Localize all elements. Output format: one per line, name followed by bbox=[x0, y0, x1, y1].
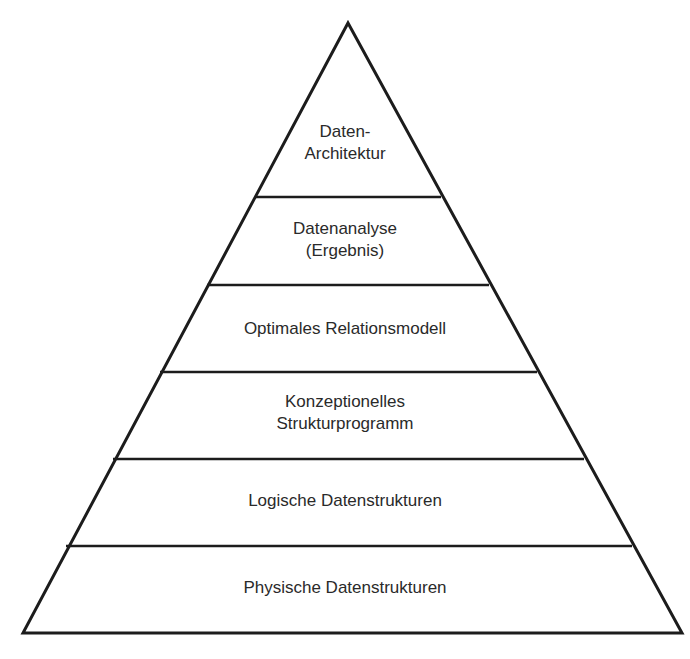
level-label-line: (Ergebnis) bbox=[0, 240, 690, 262]
level-datenanalyse: Datenanalyse (Ergebnis) bbox=[0, 218, 690, 262]
level-label-line: Architektur bbox=[0, 143, 690, 165]
level-label-line: Optimales Relationsmodell bbox=[0, 318, 690, 340]
level-label-line: Daten- bbox=[0, 121, 690, 143]
level-label-line: Strukturprogramm bbox=[0, 413, 690, 435]
level-label-line: Datenanalyse bbox=[0, 218, 690, 240]
level-label-line: Physische Datenstrukturen bbox=[0, 577, 690, 599]
level-optimales-relationsmodell: Optimales Relationsmodell bbox=[0, 318, 690, 340]
level-label-line: Konzeptionelles bbox=[0, 391, 690, 413]
level-label-line: Logische Datenstrukturen bbox=[0, 490, 690, 512]
level-physische-datenstrukturen: Physische Datenstrukturen bbox=[0, 577, 690, 599]
level-logische-datenstrukturen: Logische Datenstrukturen bbox=[0, 490, 690, 512]
level-daten-architektur: Daten- Architektur bbox=[0, 121, 690, 165]
level-konzeptionelles-strukturprogramm: Konzeptionelles Strukturprogramm bbox=[0, 391, 690, 435]
